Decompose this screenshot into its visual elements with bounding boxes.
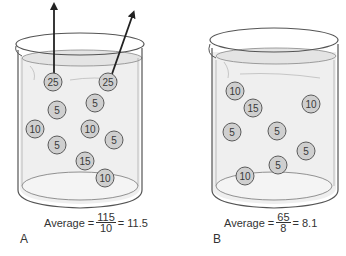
ball-value: 5: [229, 127, 235, 138]
average-formula-b: Average = 65 8 = 8.1: [224, 212, 317, 233]
ball-a: 10: [26, 120, 44, 138]
ball-value: 5: [275, 160, 281, 171]
ball-b: 5: [223, 123, 241, 141]
ball-value: 5: [274, 126, 280, 137]
ball-value: 5: [54, 105, 60, 116]
ball-a: 10: [96, 169, 114, 187]
result-a: = 11.5: [118, 217, 148, 229]
ball-b: 15: [244, 99, 262, 117]
average-label-a: Average =: [44, 217, 94, 229]
ball-value: 5: [92, 98, 98, 109]
ball-value: 25: [102, 77, 114, 88]
average-label-b: Average =: [224, 217, 274, 229]
ball-value: 10: [229, 86, 241, 97]
ball-value: 10: [99, 173, 111, 184]
ball-value: 10: [239, 171, 251, 182]
panel-label-b: B: [213, 232, 221, 246]
ball-a: 25: [99, 73, 117, 91]
fraction-b: 65 8: [276, 212, 290, 233]
ball-value: 15: [79, 156, 91, 167]
ball-b: 5: [297, 142, 315, 160]
ball-b: 10: [302, 95, 320, 113]
ball-value: 10: [29, 124, 41, 135]
denominator-b: 8: [280, 223, 286, 233]
ball-b: 10: [236, 167, 254, 185]
ball-value: 5: [111, 135, 117, 146]
panel-label-a: A: [20, 232, 28, 246]
ball-a: 5: [86, 94, 104, 112]
ball-a: 5: [48, 101, 66, 119]
ball-b: 10: [226, 82, 244, 100]
ball-value: 5: [54, 140, 60, 151]
ball-b: 5: [268, 122, 286, 140]
beaker-b: [209, 28, 338, 208]
denominator-a: 10: [100, 223, 112, 233]
ball-b: 5: [269, 156, 287, 174]
ball-value: 10: [305, 99, 317, 110]
ball-a: 5: [105, 131, 123, 149]
ball-value: 5: [303, 146, 309, 157]
ball-value: 25: [47, 77, 59, 88]
ball-value: 10: [84, 124, 96, 135]
ball-a: 10: [81, 120, 99, 138]
ball-value: 15: [247, 103, 259, 114]
ball-a: 15: [76, 152, 94, 170]
average-formula-a: Average = 115 10 = 11.5: [44, 212, 148, 233]
ball-a: 25: [44, 73, 62, 91]
fraction-a: 115 10: [96, 212, 116, 233]
result-b: = 8.1: [293, 217, 318, 229]
ball-a: 5: [48, 136, 66, 154]
